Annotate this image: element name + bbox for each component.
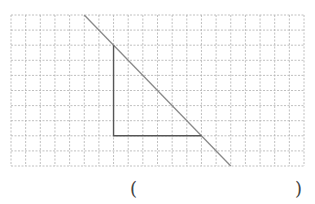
- answer-close-paren: ): [295, 180, 302, 198]
- grid-figure: [0, 0, 315, 180]
- answer-open-paren: (: [130, 180, 137, 198]
- answer-blank[interactable]: [145, 180, 290, 200]
